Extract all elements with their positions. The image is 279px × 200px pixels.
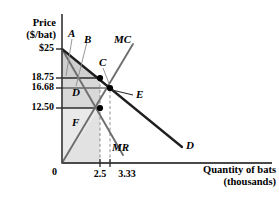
y-tick-label-25: $25 — [6, 42, 54, 53]
label-e: E — [136, 88, 143, 100]
y-tick-label-12-50: 12.50 — [2, 101, 54, 112]
y-axis-title: Price ($/bat) — [2, 17, 56, 40]
marker-marginal-cost-point — [97, 105, 103, 111]
label-mr: MR — [112, 141, 129, 153]
origin-label: 0 — [52, 166, 57, 177]
marker-competitive-point — [107, 85, 113, 91]
x-axis-title-line2: (thousands) — [223, 176, 276, 187]
label-f: F — [72, 116, 79, 128]
label-b: B — [84, 33, 91, 45]
marker-monopoly-price-point — [97, 75, 103, 81]
label-d-region: D — [72, 86, 80, 98]
label-d-curve: D — [186, 139, 194, 151]
x-axis-title-line1: Quantity of bats — [203, 164, 276, 175]
economics-chart: Price ($/bat) $25 18.75 16.68 12.50 0 2.… — [0, 0, 279, 200]
x-tick-label-2-5: 2.5 — [86, 168, 114, 179]
x-tick-label-3-33: 3.33 — [112, 168, 142, 179]
label-c: C — [99, 56, 106, 68]
y-axis-title-line2: ($/bat) — [26, 29, 56, 40]
y-axis-title-line1: Price — [33, 17, 56, 28]
y-tick-label-16-68: 16.68 — [2, 81, 54, 92]
label-a: A — [68, 27, 75, 39]
label-mc: MC — [114, 33, 131, 45]
x-axis-title: Quantity of bats (thousands) — [152, 164, 276, 187]
